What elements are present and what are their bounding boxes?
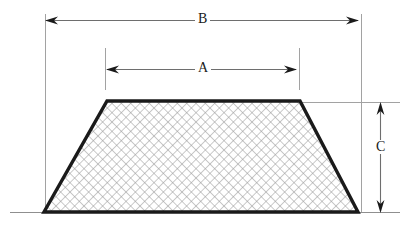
trapezoid-fill (44, 101, 358, 212)
dimension-line-c (377, 102, 385, 213)
diagram-canvas: B A C (0, 0, 412, 227)
trapezoid-shape (44, 101, 358, 212)
dimension-diagram (0, 0, 412, 227)
dimension-label-c: C (373, 140, 388, 154)
dimension-label-b: B (195, 12, 210, 26)
dimension-label-a: A (195, 61, 211, 75)
